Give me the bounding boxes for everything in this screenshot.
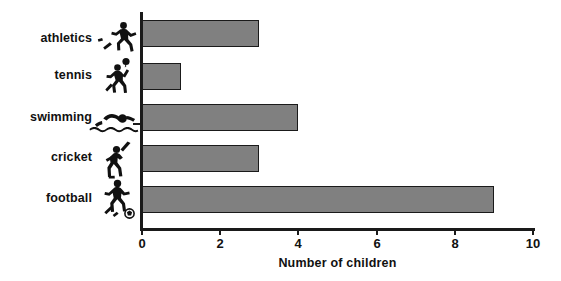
bar-swimming <box>142 104 298 131</box>
bar-football <box>142 186 494 213</box>
x-axis-line <box>140 228 535 231</box>
bar-tennis <box>142 63 181 90</box>
cricket-batsman-icon <box>96 140 140 180</box>
x-axis-tick-10 <box>532 228 534 235</box>
tennis-player-icon <box>96 56 140 96</box>
x-axis-tick-6 <box>376 228 378 235</box>
bar-chart: athletics tennis swimming cricket footba… <box>0 0 561 281</box>
category-label-cricket: cricket <box>0 150 92 164</box>
y-axis-tick <box>133 123 140 125</box>
footballer-icon <box>96 178 140 218</box>
plot-area <box>142 14 533 228</box>
bar-athletics <box>142 20 259 47</box>
category-label-tennis: tennis <box>0 68 92 82</box>
x-axis-label-10: 10 <box>513 236 553 251</box>
x-axis-label-0: 0 <box>122 236 162 251</box>
x-axis-label-8: 8 <box>435 236 475 251</box>
x-axis-tick-2 <box>219 228 221 235</box>
x-axis-title: Number of children <box>142 256 533 270</box>
category-label-swimming: swimming <box>0 110 92 124</box>
category-label-football: football <box>0 191 92 205</box>
category-label-athletics: athletics <box>0 31 92 45</box>
x-axis-label-4: 4 <box>278 236 318 251</box>
x-axis-tick-8 <box>454 228 456 235</box>
swimmer-icon <box>88 102 143 142</box>
running-athlete-icon <box>96 17 140 57</box>
x-axis-label-6: 6 <box>357 236 397 251</box>
x-axis-tick-4 <box>297 228 299 235</box>
x-axis-label-2: 2 <box>200 236 240 251</box>
x-axis-tick-0 <box>141 228 143 235</box>
bar-cricket <box>142 145 259 172</box>
